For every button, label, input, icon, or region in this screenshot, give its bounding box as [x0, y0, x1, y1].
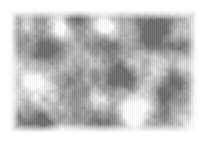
noise-texture-plate: [10, 10, 197, 133]
image-title: Grayscale Cloud Noise Texture: [0, 0, 1, 1]
cloud-noise-surface: [10, 10, 197, 133]
image-canvas: Grayscale Cloud Noise Texture: [0, 0, 207, 143]
